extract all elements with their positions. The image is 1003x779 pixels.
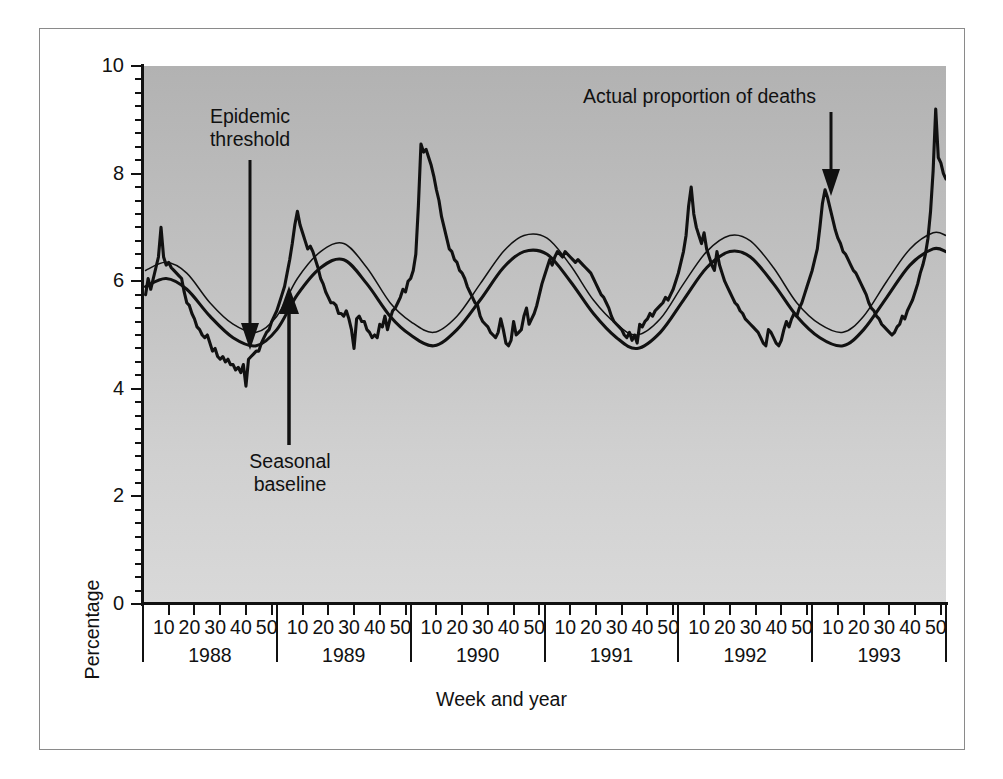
x-axis-week-tick — [595, 604, 597, 615]
y-axis-major-tick — [131, 65, 142, 67]
annotation-epidemic-threshold-line1: Epidemic — [170, 105, 330, 128]
y-axis-tick-label: 6 — [90, 270, 124, 290]
annotation-epidemic-threshold-line2: threshold — [170, 128, 330, 151]
y-axis-minor-tick — [135, 469, 142, 471]
x-axis-week-tick — [621, 604, 623, 615]
y-axis-minor-tick — [135, 132, 142, 134]
series-epidemic-threshold — [146, 232, 946, 335]
x-axis-year-label: 1991 — [556, 645, 666, 666]
y-axis-minor-tick — [135, 119, 142, 121]
y-axis-minor-tick — [135, 374, 142, 376]
y-axis-minor-tick — [135, 186, 142, 188]
y-axis-minor-tick — [135, 213, 142, 215]
y-axis-minor-tick — [135, 428, 142, 430]
annotation-seasonal-baseline-line2: baseline — [210, 473, 370, 496]
y-axis-minor-tick — [135, 267, 142, 269]
x-axis-week-tick — [271, 604, 273, 615]
y-axis-tick-label: 8 — [90, 163, 124, 183]
y-axis-minor-tick — [135, 415, 142, 417]
x-axis-year-label: 1990 — [423, 645, 533, 666]
y-axis-minor-tick — [135, 92, 142, 94]
x-axis-week-tick — [513, 604, 515, 615]
y-axis-minor-tick — [135, 482, 142, 484]
x-axis-week-label: 50 — [250, 617, 284, 638]
x-axis-week-tick — [461, 604, 463, 615]
y-axis-minor-tick — [135, 334, 142, 336]
x-axis-week-tick — [863, 604, 865, 615]
x-axis-week-tick — [672, 604, 674, 615]
x-axis-week-tick — [888, 604, 890, 615]
y-axis-tick-label: 10 — [90, 55, 124, 75]
y-axis-minor-tick — [135, 200, 142, 202]
y-axis-title-wrap: Percentage — [52, 300, 92, 340]
y-axis-minor-tick — [135, 590, 142, 592]
y-axis-minor-tick — [135, 253, 142, 255]
y-axis-minor-tick — [135, 347, 142, 349]
y-axis-tick-label: 2 — [90, 485, 124, 505]
x-axis-year-label: 1988 — [155, 645, 265, 666]
x-axis-year-label: 1989 — [289, 645, 399, 666]
annotation-epidemic-threshold: Epidemic threshold — [170, 105, 330, 151]
x-axis-week-tick — [837, 604, 839, 615]
y-axis-minor-tick — [135, 307, 142, 309]
x-axis-week-tick — [405, 604, 407, 615]
x-axis-week-tick — [940, 604, 942, 615]
x-axis-week-tick — [219, 604, 221, 615]
y-axis-minor-tick — [135, 549, 142, 551]
x-axis-week-label: 50 — [517, 617, 551, 638]
y-axis-minor-tick — [135, 105, 142, 107]
x-axis-week-tick — [193, 604, 195, 615]
x-axis-week-tick — [703, 604, 705, 615]
y-axis-minor-tick — [135, 576, 142, 578]
x-axis-week-tick — [379, 604, 381, 615]
y-axis-major-tick — [131, 495, 142, 497]
y-axis-minor-tick — [135, 146, 142, 148]
y-axis-minor-tick — [135, 536, 142, 538]
x-axis-week-label: 50 — [919, 617, 953, 638]
y-axis-minor-tick — [135, 226, 142, 228]
x-axis-week-tick — [168, 604, 170, 615]
y-axis-major-tick — [131, 388, 142, 390]
x-axis-week-tick — [353, 604, 355, 615]
x-axis-week-label: 50 — [651, 617, 685, 638]
x-axis-week-tick — [729, 604, 731, 615]
x-axis-week-tick — [755, 604, 757, 615]
x-axis-week-tick — [327, 604, 329, 615]
figure-container: 0246810 Percentage 102030405019881020304… — [0, 0, 1003, 779]
x-axis-week-tick — [487, 604, 489, 615]
y-axis-major-tick — [131, 280, 142, 282]
y-axis-major-tick — [131, 603, 142, 605]
x-axis-week-tick — [914, 604, 916, 615]
x-axis-week-tick — [806, 604, 808, 615]
x-axis-week-tick — [569, 604, 571, 615]
y-axis-minor-tick — [135, 522, 142, 524]
x-axis-year-label: 1992 — [690, 645, 800, 666]
x-axis-week-tick — [245, 604, 247, 615]
annotation-actual-proportion: Actual proportion of deaths — [583, 85, 883, 108]
y-axis-tick-label: 4 — [90, 378, 124, 398]
x-axis-week-tick — [646, 604, 648, 615]
x-axis-title: Week and year — [0, 688, 1003, 711]
y-axis-minor-tick — [135, 401, 142, 403]
annotation-seasonal-baseline-line1: Seasonal — [210, 450, 370, 473]
x-axis-week-label: 50 — [384, 617, 418, 638]
x-axis-week-label: 50 — [785, 617, 819, 638]
x-axis-year-label: 1993 — [824, 645, 934, 666]
x-axis-year-separator — [142, 604, 144, 662]
y-axis-minor-tick — [135, 321, 142, 323]
x-axis-week-tick — [302, 604, 304, 615]
y-axis-minor-tick — [135, 294, 142, 296]
x-axis-week-tick — [435, 604, 437, 615]
y-axis-minor-tick — [135, 361, 142, 363]
y-axis-minor-tick — [135, 159, 142, 161]
y-axis-minor-tick — [135, 455, 142, 457]
x-axis-week-tick — [780, 604, 782, 615]
y-axis-minor-tick — [135, 563, 142, 565]
x-axis-week-tick — [538, 604, 540, 615]
y-axis-minor-tick — [135, 509, 142, 511]
y-axis-major-tick — [131, 173, 142, 175]
y-axis-minor-tick — [135, 78, 142, 80]
annotation-seasonal-baseline: Seasonal baseline — [210, 450, 370, 496]
y-axis-minor-tick — [135, 442, 142, 444]
y-axis-minor-tick — [135, 240, 142, 242]
